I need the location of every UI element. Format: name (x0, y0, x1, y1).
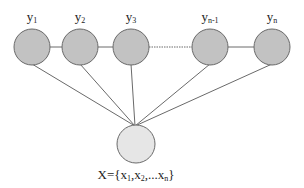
output-node-y3 (113, 29, 149, 65)
edge-x-to-yn-1 (135, 64, 210, 126)
input-label-x2: x2 (134, 167, 145, 182)
input-node-group (117, 125, 155, 163)
input-sequence-label: X={x1,x2,...xn} (98, 168, 175, 183)
label-y1: y1 (27, 10, 38, 25)
label-y3: y3 (126, 10, 137, 25)
label-yn: yn (267, 10, 278, 25)
output-node-yn (254, 29, 290, 65)
output-node-y1 (14, 29, 50, 65)
output-node-y2 (62, 29, 98, 65)
output-node-yn-1 (192, 29, 228, 65)
input-label-suffix: } (168, 167, 174, 182)
input-label-xn: xn (158, 167, 169, 182)
label-y2: y2 (75, 10, 86, 25)
input-node-x (117, 125, 155, 163)
input-to-output-edges (32, 64, 272, 126)
edge-x-to-y1 (32, 64, 135, 126)
crf-diagram (0, 0, 304, 188)
input-label-x1: x1 (120, 167, 131, 182)
edge-x-to-y3 (131, 64, 135, 126)
label-yn-1: yn-1 (201, 10, 218, 25)
edge-x-to-y2 (80, 64, 135, 126)
input-label-prefix: X={ (98, 167, 121, 182)
edge-x-to-yn (135, 64, 272, 126)
